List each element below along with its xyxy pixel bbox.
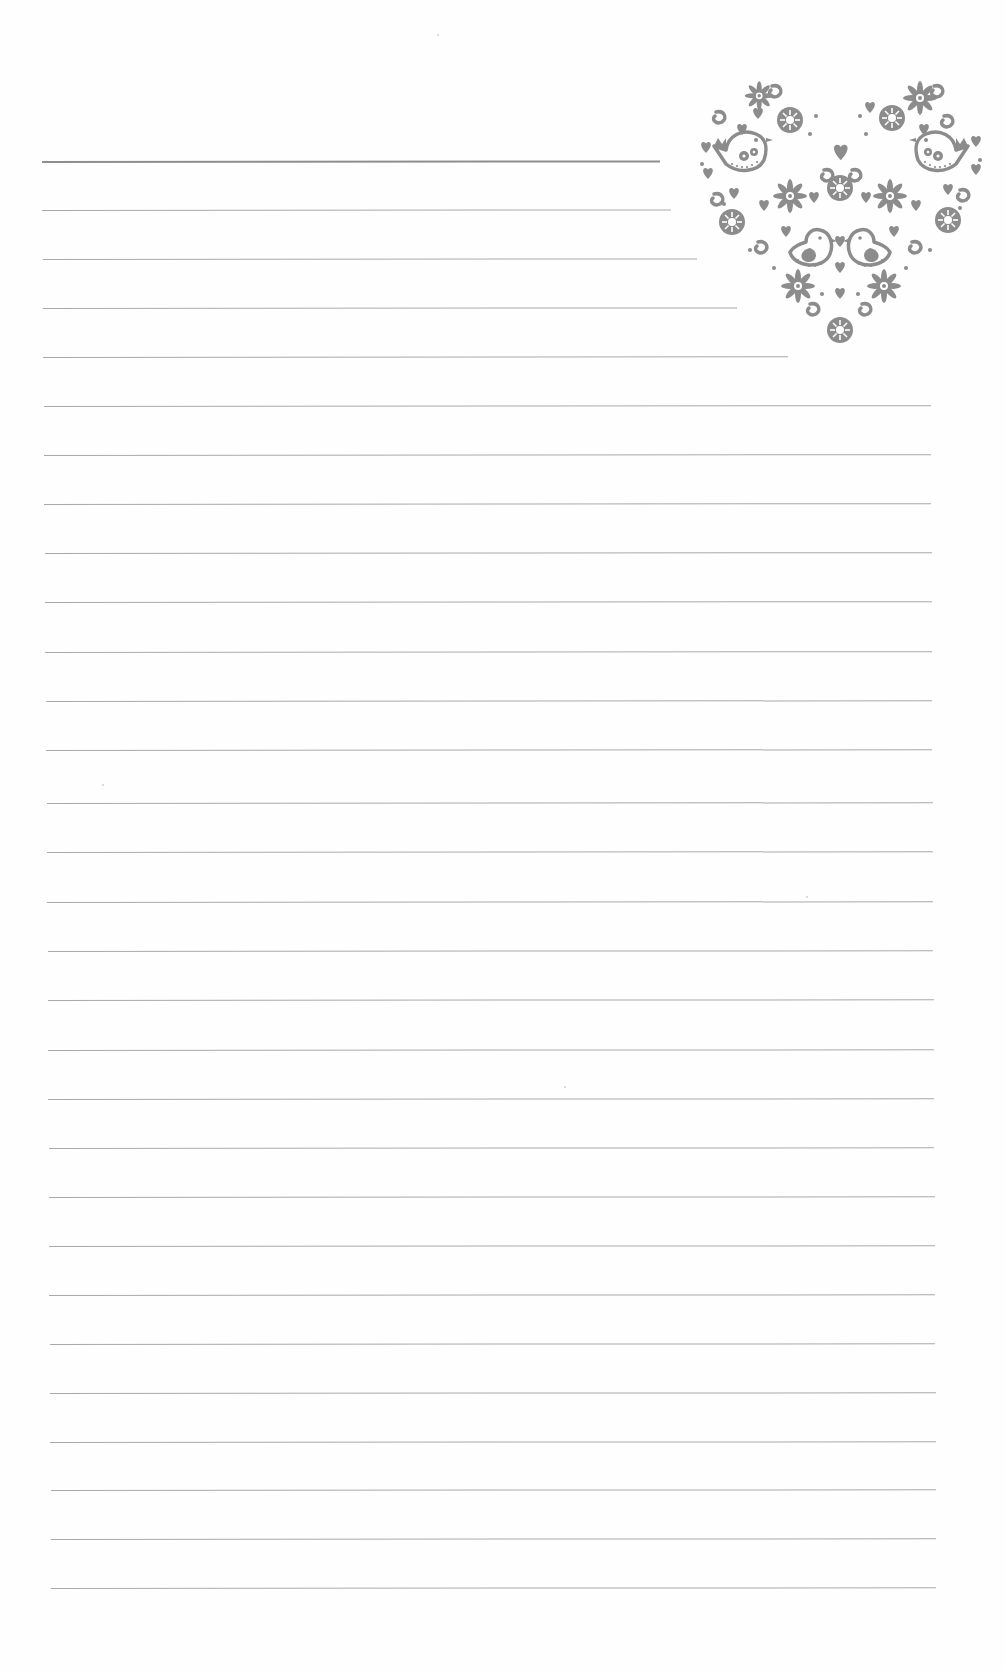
paper-speck bbox=[437, 34, 439, 36]
ruled-line bbox=[42, 160, 660, 163]
paper-speck bbox=[564, 1086, 566, 1088]
ruled-line bbox=[44, 405, 931, 407]
ruled-line bbox=[42, 209, 671, 211]
ruled-line bbox=[47, 851, 933, 853]
ruled-line bbox=[50, 1441, 936, 1443]
ruled-line bbox=[45, 552, 932, 554]
folk-art-heart-icon bbox=[698, 72, 988, 352]
ruled-line bbox=[45, 651, 932, 653]
ruled-line bbox=[48, 950, 933, 952]
ruled-line bbox=[48, 1098, 934, 1100]
ruled-line bbox=[48, 1049, 934, 1051]
ruled-line bbox=[45, 601, 932, 603]
ruled-line bbox=[43, 258, 697, 260]
ruled-line bbox=[51, 1587, 936, 1589]
ruled-line bbox=[44, 503, 931, 505]
ruled-line bbox=[51, 1538, 936, 1540]
ruled-line bbox=[43, 307, 737, 309]
ruled-line bbox=[46, 700, 932, 702]
ruled-line bbox=[47, 901, 933, 903]
paper-speck bbox=[806, 896, 808, 898]
ruled-line bbox=[50, 1392, 936, 1394]
paper-speck bbox=[102, 784, 104, 786]
ruled-line bbox=[49, 1147, 934, 1149]
ruled-line bbox=[47, 802, 933, 804]
ruled-line bbox=[43, 356, 788, 358]
lined-paper-page bbox=[0, 0, 1005, 1671]
ruled-line bbox=[49, 1245, 935, 1247]
ruled-line bbox=[51, 1489, 936, 1491]
ruled-line bbox=[49, 1196, 935, 1198]
ruled-line bbox=[49, 1294, 935, 1296]
ruled-line bbox=[46, 749, 932, 751]
ruled-line bbox=[50, 1343, 935, 1345]
ruled-line bbox=[48, 999, 934, 1001]
ruled-line bbox=[44, 454, 931, 456]
